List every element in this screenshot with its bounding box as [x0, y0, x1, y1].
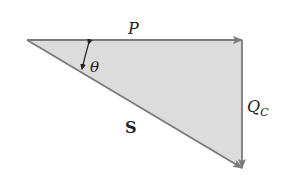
- qc-label-main: Q: [247, 97, 260, 116]
- s-label: S: [125, 118, 137, 137]
- qc-label-subscript: C: [260, 106, 269, 119]
- angle-theta-label: θ: [90, 58, 99, 76]
- power-triangle-diagram: P θ QC S: [0, 0, 285, 181]
- p-label: P: [127, 19, 139, 38]
- qc-label: QC: [247, 97, 269, 119]
